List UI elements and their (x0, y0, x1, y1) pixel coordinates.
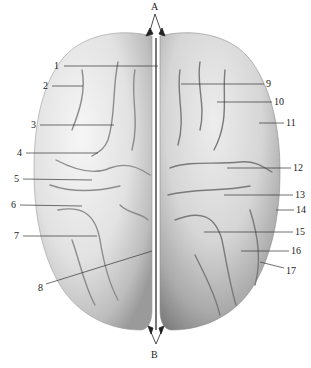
label-4: 4 (17, 148, 22, 158)
orientation-label-top: A (151, 2, 158, 12)
label-5: 5 (14, 174, 19, 184)
label-13: 13 (295, 190, 305, 200)
label-12: 12 (293, 163, 303, 173)
label-15: 15 (295, 227, 305, 237)
label-10: 10 (274, 97, 284, 107)
brain-dorsal-diagram: A B 1 2 3 4 5 6 7 8 9 10 11 12 13 14 15 … (0, 0, 311, 368)
label-11: 11 (286, 118, 296, 128)
label-8: 8 (38, 283, 43, 293)
label-9: 9 (266, 79, 271, 89)
label-7: 7 (14, 231, 19, 241)
label-17: 17 (286, 266, 296, 276)
brain-illustration (0, 0, 311, 368)
orientation-label-bottom: B (151, 350, 158, 360)
label-14: 14 (296, 205, 306, 215)
label-6: 6 (11, 200, 16, 210)
label-16: 16 (291, 246, 301, 256)
label-1: 1 (54, 61, 59, 71)
right-hemisphere (160, 33, 280, 330)
label-3: 3 (31, 120, 36, 130)
label-2: 2 (43, 81, 48, 91)
